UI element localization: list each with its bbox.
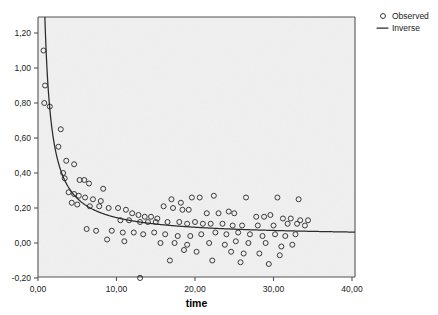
x-axis-ticks: 0,0010,0020,0030,0040,00 xyxy=(30,277,363,294)
plot-background xyxy=(38,17,355,277)
legend-label-observed: Observed xyxy=(392,11,429,21)
y-tick-label: 1,20 xyxy=(14,28,31,38)
legend-label-inverse: Inverse xyxy=(392,23,420,33)
y-tick-label: 0,60 xyxy=(14,133,31,143)
legend: ObservedInverse xyxy=(377,11,429,33)
inverse-regression-chart: -0,200,000,200,400,600,801,001,200,0010,… xyxy=(0,0,438,315)
x-axis-title: time xyxy=(186,297,208,309)
y-tick-label: 1,00 xyxy=(14,63,31,73)
x-tick-label: 10,00 xyxy=(106,284,128,294)
y-tick-label: -0,20 xyxy=(12,273,32,283)
x-tick-label: 0,00 xyxy=(30,284,47,294)
x-tick-label: 40,00 xyxy=(341,284,363,294)
y-axis-ticks: -0,200,000,200,400,600,801,001,20 xyxy=(12,28,38,283)
x-tick-label: 30,00 xyxy=(263,284,285,294)
y-tick-label: 0,00 xyxy=(14,238,31,248)
y-tick-label: 0,40 xyxy=(14,168,31,178)
y-tick-label: 0,80 xyxy=(14,98,31,108)
legend-marker-observed xyxy=(381,14,386,19)
y-tick-label: 0,20 xyxy=(14,203,31,213)
chart-canvas: -0,200,000,200,400,600,801,001,200,0010,… xyxy=(0,0,438,315)
x-tick-label: 20,00 xyxy=(184,284,206,294)
